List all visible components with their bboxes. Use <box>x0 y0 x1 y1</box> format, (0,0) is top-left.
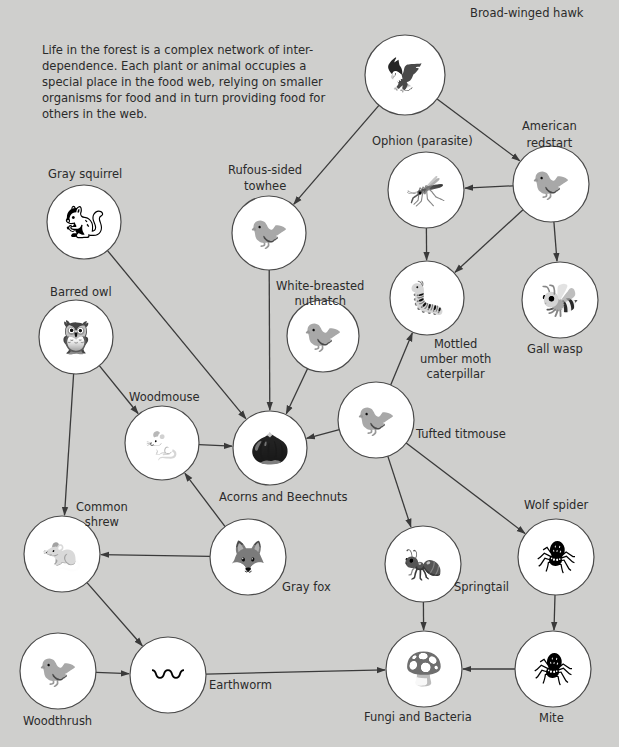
edge-woodmouse-to-acorns <box>199 445 232 447</box>
label-nuthatch: White-breastednuthatch <box>276 279 364 309</box>
node-woodthrush: 🐦 <box>20 633 96 709</box>
mouse-icon: 🐁 <box>142 424 182 462</box>
node-hawk: 🦅 <box>365 35 445 115</box>
gall-wasp-icon: 🐝 <box>540 281 580 319</box>
edge-redstart-to-caterpillar <box>455 210 523 273</box>
node-fungi: 🍄 <box>386 631 462 707</box>
label-wolfspider: Wolf spider <box>524 498 588 512</box>
label-acorns: Acorns and Beechnuts <box>219 490 348 504</box>
label-shrew: Commonshrew <box>76 500 128 530</box>
label-titmouse: Tufted titmouse <box>416 427 506 441</box>
edge-titmouse-to-wolfspider <box>406 443 525 533</box>
label-owl: Barred owl <box>50 285 112 299</box>
edge-titmouse-to-springtail <box>388 456 411 527</box>
label-ophion: Ophion (parasite) <box>372 134 473 148</box>
acorn-icon: 🌰 <box>250 429 290 467</box>
spider-icon: 🕷 <box>536 538 577 576</box>
mite-icon: 🕷 <box>533 650 574 688</box>
node-wolfspider: 🕷 <box>518 519 594 595</box>
node-redstart: 🐦 <box>513 146 589 222</box>
hawk-icon: 🦅 <box>385 56 425 94</box>
label-caterpillar: Mottledumber mothcaterpillar <box>420 337 491 382</box>
label-hawk: Broad-winged hawk <box>470 6 584 20</box>
label-gallwasp: Gall wasp <box>527 342 583 356</box>
node-gallwasp: 🐝 <box>522 262 598 338</box>
edge-owl-to-shrew <box>65 374 74 515</box>
edge-hawk-to-redstart <box>437 99 520 161</box>
node-fox: 🦊 <box>210 519 286 595</box>
fungi-icon: 🍄 <box>404 650 444 688</box>
node-owl: 🦉 <box>39 300 113 374</box>
node-acorns: 🌰 <box>233 411 307 485</box>
springtail-icon: 🐜 <box>403 545 443 583</box>
edge-redstart-to-gallwasp <box>554 222 557 261</box>
edge-hawk-to-towhee <box>294 105 379 204</box>
food-web-diagram: Life in the forest is a complex network … <box>0 0 619 747</box>
edge-nuthatch-to-acorns <box>286 369 307 414</box>
food-web-canvas: 🦅🐦🦟🐦🐿🦉🐦🐛🐝🐁🌰🐦🐀🦊🐜🕷🐦〰🍄🕷 <box>0 0 619 747</box>
node-earthworm: 〰 <box>130 637 206 713</box>
edge-towhee-to-acorns <box>269 270 270 410</box>
towhee-icon: 🐦 <box>249 214 289 252</box>
node-mite: 🕷 <box>515 631 591 707</box>
label-earthworm: Earthworm <box>209 678 272 692</box>
edge-fox-to-shrew <box>101 555 210 557</box>
node-nuthatch: 🐦 <box>287 300 359 372</box>
edge-shrew-to-earthworm <box>87 583 142 646</box>
label-towhee: Rufous-sidedtowhee <box>228 162 302 194</box>
titmouse-icon: 🐦 <box>356 401 396 439</box>
node-caterpillar: 🐛 <box>390 261 464 335</box>
caterpillar-icon: 🐛 <box>407 279 447 317</box>
label-woodthrush: Woodthrush <box>23 714 92 728</box>
edge-earthworm-to-fungi <box>206 670 385 674</box>
squirrel-icon: 🐿 <box>64 203 105 241</box>
thrush-icon: 🐦 <box>38 652 78 690</box>
label-mite: Mite <box>539 711 564 725</box>
edge-woodthrush-to-earthworm <box>96 672 129 673</box>
wasp-icon: 🦟 <box>406 171 446 209</box>
label-fungi: Fungi and Bacteria <box>364 710 472 724</box>
nuthatch-icon: 🐦 <box>303 317 343 355</box>
redstart-icon: 🐦 <box>531 165 571 203</box>
label-squirrel: Gray squirrel <box>48 167 122 181</box>
earthworm-icon: 〰 <box>152 656 184 694</box>
label-woodmouse: Woodmouse <box>129 390 200 404</box>
node-ophion: 🦟 <box>388 152 464 228</box>
owl-icon: 🦉 <box>56 318 96 356</box>
node-squirrel: 🐿 <box>47 185 121 259</box>
node-woodmouse: 🐁 <box>125 406 199 480</box>
label-springtail: Springtail <box>454 580 509 594</box>
label-redstart: Americanredstart <box>522 118 577 152</box>
node-titmouse: 🐦 <box>338 382 414 458</box>
fox-icon: 🦊 <box>228 538 268 576</box>
node-springtail: 🐜 <box>385 526 461 602</box>
shrew-icon: 🐀 <box>42 535 82 573</box>
label-fox: Gray fox <box>282 580 331 594</box>
node-towhee: 🐦 <box>232 196 306 270</box>
edge-titmouse-to-caterpillar <box>391 333 413 385</box>
edge-redstart-to-ophion <box>465 186 513 188</box>
edge-titmouse-to-acorns <box>307 430 340 439</box>
edge-wolfspider-to-mite <box>554 595 555 630</box>
